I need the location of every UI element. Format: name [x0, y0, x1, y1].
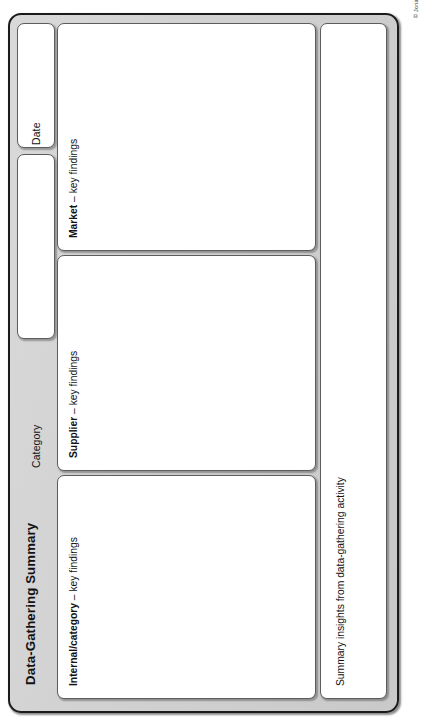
internal-panel-label: Internal/category – key findings: [69, 537, 79, 686]
market-panel-label-strong: Market: [68, 205, 79, 238]
supplier-panel-label-rest: – key findings: [68, 351, 79, 417]
market-key-findings-panel[interactable]: Market – key findings: [57, 23, 316, 251]
template-frame: Date Category Data-Gathering Summary Mar…: [8, 13, 399, 713]
supplier-panel-label: Supplier – key findings: [69, 351, 79, 458]
category-field-box[interactable]: Category: [17, 154, 55, 339]
page-canvas: Date Category Data-Gathering Summary Mar…: [0, 0, 425, 728]
internal-panel-label-strong: Internal/category: [68, 603, 79, 686]
summary-insights-panel[interactable]: Summary insights from data-gathering act…: [320, 23, 387, 699]
market-panel-label: Market – key findings: [69, 139, 79, 238]
market-panel-label-rest: – key findings: [68, 139, 79, 205]
category-field-label: Category: [31, 425, 42, 468]
supplier-panel-label-strong: Supplier: [68, 417, 79, 458]
copyright-notice: © Jonathan O'Brien, 2015: [413, 0, 419, 18]
supplier-key-findings-panel[interactable]: Supplier – key findings: [57, 255, 316, 471]
internal-panel-label-rest: – key findings: [68, 537, 79, 603]
internal-category-key-findings-panel[interactable]: Internal/category – key findings: [57, 475, 316, 699]
summary-insights-label: Summary insights from data-gathering act…: [336, 477, 346, 686]
page-title: Data-Gathering Summary: [24, 523, 37, 685]
date-field-box[interactable]: Date: [17, 23, 55, 148]
date-field-label: Date: [31, 122, 42, 145]
